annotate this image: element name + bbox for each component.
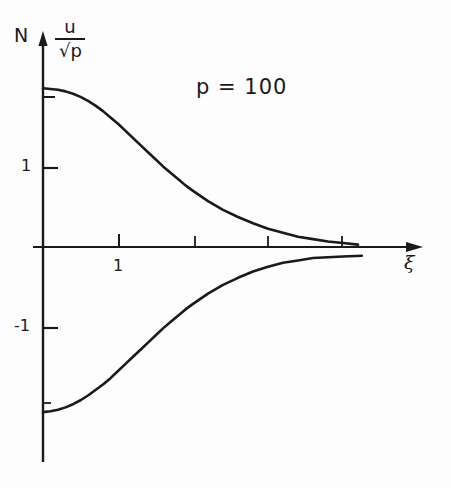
plot-svg: [0, 0, 451, 488]
data-curves-group: [43, 88, 362, 412]
y-axis-denominator-text: p: [70, 40, 81, 61]
parameter-annotation: p = 100: [196, 77, 287, 98]
curve-upper: [43, 88, 358, 244]
y-axis-label: u √p: [55, 18, 85, 61]
axis-corner-marker: N: [14, 26, 29, 45]
x-axis-label: ξ: [404, 253, 414, 272]
figure-canvas: N u √p p = 100 ξ 1 -1 1: [0, 0, 451, 488]
y-axis-numerator: u: [55, 18, 85, 38]
x-tick-label-1: 1: [113, 258, 123, 274]
curve-lower: [43, 256, 362, 412]
y-axis-arrowhead: [38, 31, 47, 46]
y-axis-fraction: u √p: [55, 18, 85, 61]
sqrt-symbol: √: [58, 42, 70, 61]
y-tick-label-1: 1: [21, 158, 31, 174]
y-axis-denominator: √p: [55, 41, 85, 61]
y-tick-label-neg1: -1: [14, 318, 30, 334]
